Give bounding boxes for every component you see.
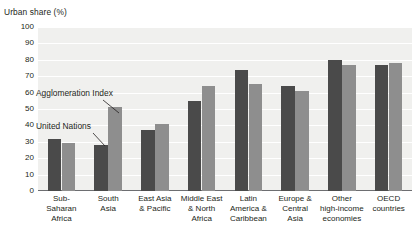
y-axis-tick-label: 100: [0, 23, 34, 31]
bar: [62, 143, 76, 191]
y-axis-tick-label: 80: [0, 56, 34, 64]
bar: [389, 63, 403, 191]
x-axis-category-label-line: Central: [272, 204, 319, 214]
bar: [202, 86, 216, 191]
bar-group: [281, 27, 309, 191]
x-axis-category-label-line: Europe &: [272, 194, 319, 204]
x-axis-category-label-line: America &: [225, 204, 272, 214]
bars-layer: [38, 27, 412, 191]
x-axis-category-label-line: & Pacific: [132, 204, 179, 214]
y-axis-tick-label: 40: [0, 121, 34, 129]
x-axis-category-label-line: countries: [365, 204, 412, 214]
x-axis-category-label-line: Caribbean: [225, 214, 272, 224]
bar-group: [141, 27, 169, 191]
x-axis-category-label: Sub-SaharanAfrica: [38, 194, 85, 225]
x-axis-category-label: SouthAsia: [85, 194, 132, 214]
x-axis-category-label-line: high-income: [319, 204, 366, 214]
bar-group: [375, 27, 403, 191]
y-axis-tick-label: 30: [0, 138, 34, 146]
y-axis-tick-label: 10: [0, 171, 34, 179]
x-axis-category-label: East Asia& Pacific: [132, 194, 179, 214]
annotation-united-nations: United Nations: [36, 122, 91, 131]
bar: [188, 101, 202, 191]
x-axis-category-label-line: Latin: [225, 194, 272, 204]
y-axis-tick-label: 0: [0, 187, 34, 195]
x-axis-category-label: Otherhigh-incomeeconomies: [319, 194, 366, 225]
bar: [328, 60, 342, 191]
bar: [295, 91, 309, 191]
bar: [155, 124, 169, 191]
y-axis-tick-label: 60: [0, 89, 34, 97]
bar: [342, 65, 356, 191]
y-axis-tick-label: 50: [0, 105, 34, 113]
bar: [281, 86, 295, 191]
bar: [235, 70, 249, 191]
y-axis-tick-label: 20: [0, 154, 34, 162]
bar: [375, 65, 389, 191]
x-axis-category-label-line: Middle East: [178, 194, 225, 204]
bar-group: [328, 27, 356, 191]
x-axis-category-label-line: East Asia: [132, 194, 179, 204]
chart-title: Urban share (%): [4, 7, 67, 17]
annotation-agglomeration-index: Agglomeration Index: [36, 89, 113, 98]
bar-group: [48, 27, 76, 191]
bar: [48, 139, 62, 191]
y-axis-tick-label: 90: [0, 39, 34, 47]
x-axis-category-label-line: Asia: [272, 214, 319, 224]
x-axis-category-label-line: Africa: [178, 214, 225, 224]
bar: [249, 84, 263, 191]
bar-group: [235, 27, 263, 191]
x-axis-category-label-line: Asia: [85, 204, 132, 214]
x-axis-category-label-line: OECD: [365, 194, 412, 204]
y-axis: 1009080706050403020100: [0, 27, 34, 191]
bar: [108, 107, 122, 191]
x-axis-category-label: Middle East& NorthAfrica: [178, 194, 225, 225]
x-axis-category-label-line: Africa: [38, 214, 85, 224]
x-axis-category-label-line: South: [85, 194, 132, 204]
x-axis-category-label: OECDcountries: [365, 194, 412, 214]
x-axis-category-label: Europe &CentralAsia: [272, 194, 319, 225]
bar: [94, 145, 108, 191]
x-axis-category-label-line: Sub-Saharan: [38, 194, 85, 214]
x-axis-category-label-line: & North: [178, 204, 225, 214]
bar-group: [94, 27, 122, 191]
x-axis-category-label-line: economies: [319, 214, 366, 224]
x-axis-category-label: LatinAmerica &Caribbean: [225, 194, 272, 225]
bar: [141, 130, 155, 191]
bar-group: [188, 27, 216, 191]
urban-share-bar-chart: Urban share (%) 1009080706050403020100 S…: [0, 0, 415, 247]
y-axis-tick-label: 70: [0, 72, 34, 80]
x-axis-labels: Sub-SaharanAfricaSouthAsiaEast Asia& Pac…: [38, 194, 412, 244]
x-axis-category-label-line: Other: [319, 194, 366, 204]
